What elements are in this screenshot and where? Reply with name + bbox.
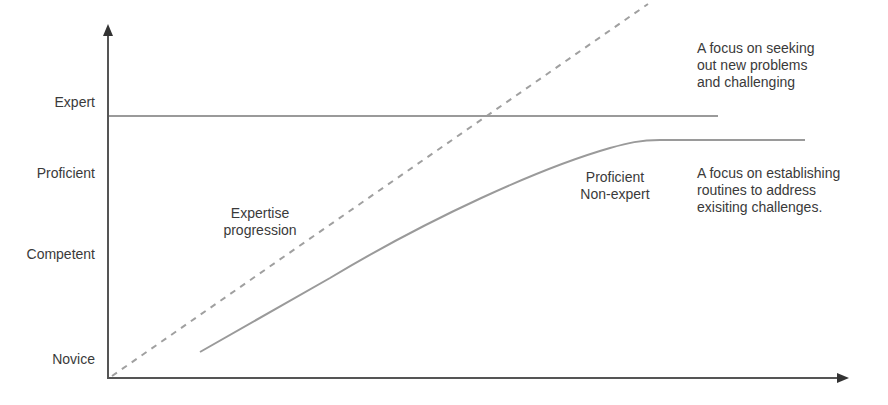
- x-axis-arrow-icon: [837, 373, 849, 383]
- annotation-line: routines to address: [697, 182, 840, 199]
- annotation-line: exisiting challenges.: [697, 199, 840, 216]
- annotation-line: out new problems: [697, 57, 815, 74]
- annotation-non-expert-focus: A focus on establishing routines to addr…: [697, 165, 840, 216]
- annotation-proficient-non-expert: Proficient Non-expert: [560, 169, 670, 203]
- y-label-proficient: Proficient: [0, 165, 95, 182]
- annotation-line: A focus on establishing: [697, 165, 840, 182]
- y-label-expert: Expert: [0, 94, 95, 111]
- y-label-competent: Competent: [0, 246, 95, 263]
- annotation-expert-focus: A focus on seeking out new problems and …: [697, 40, 815, 91]
- y-label-novice: Novice: [0, 351, 95, 368]
- annotation-line: A focus on seeking: [697, 40, 815, 57]
- y-axis-arrow-icon: [103, 24, 113, 36]
- annotation-line: Non-expert: [560, 186, 670, 203]
- annotation-line: Proficient: [560, 169, 670, 186]
- annotation-expertise-progression: Expertise progression: [205, 205, 315, 239]
- annotation-line: Expertise: [205, 205, 315, 222]
- annotation-line: and challenging: [697, 74, 815, 91]
- annotation-line: progression: [205, 222, 315, 239]
